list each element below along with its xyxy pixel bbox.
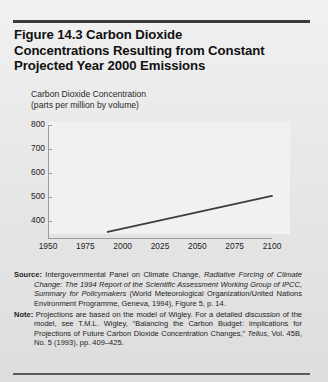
y-axis-caption-line-1: Carbon Dioxide Concentration	[31, 89, 291, 100]
note-label: Note:	[14, 310, 33, 319]
figure-title-line-1: Figure 14.3 Carbon Dioxide	[14, 27, 304, 43]
series-line-layer	[14, 117, 299, 252]
y-axis-caption-line-2: (parts per million by volume)	[31, 100, 291, 111]
footnotes: Source: Intergovernmental Panel on Clima…	[14, 270, 302, 349]
top-rule	[13, 20, 310, 23]
y-axis-caption: Carbon Dioxide Concentration (parts per …	[31, 89, 291, 112]
line-chart: 400500600700800 195019752000202520502075…	[14, 117, 299, 252]
source-text-1: Intergovernmental Panel on Climate Chang…	[42, 270, 204, 279]
bottom-rule	[13, 373, 310, 375]
note-italic-journal: Tellus	[248, 329, 267, 338]
figure-page: Figure 14.3 Carbon Dioxide Concentration…	[0, 0, 328, 382]
source-label: Source:	[14, 270, 42, 279]
series-line	[108, 196, 272, 232]
source-note: Source: Intergovernmental Panel on Clima…	[14, 270, 302, 308]
figure-title: Figure 14.3 Carbon Dioxide Concentration…	[14, 27, 304, 74]
figure-title-line-3: Projected Year 2000 Emissions	[14, 58, 304, 74]
figure-title-line-2: Concentrations Resulting from Constant	[14, 43, 304, 59]
methodology-note: Note: Projections are based on the model…	[14, 310, 302, 348]
